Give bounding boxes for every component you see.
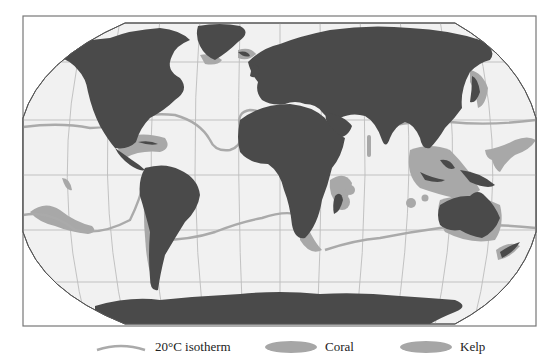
legend: 20°C isotherm Coral Kelp — [0, 332, 553, 362]
legend-item-isotherm: 20°C isotherm — [95, 332, 231, 362]
legend-label: 20°C isotherm — [155, 339, 231, 355]
isotherm-line-icon — [95, 341, 147, 353]
coral-ellipse-icon — [265, 341, 317, 353]
legend-label: Kelp — [460, 339, 485, 355]
legend-label: Coral — [325, 339, 354, 355]
kelp-ellipse-icon — [400, 341, 452, 353]
world-map — [0, 0, 553, 364]
legend-item-coral: Coral — [265, 332, 354, 362]
legend-item-kelp: Kelp — [400, 332, 485, 362]
